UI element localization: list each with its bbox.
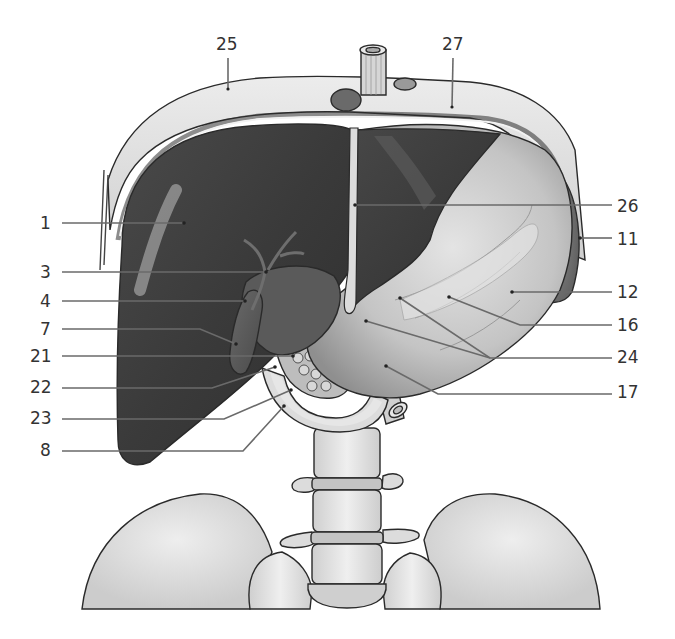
transverse-process-lower-left <box>280 532 313 548</box>
label-21: 21 <box>30 346 52 366</box>
label-1: 1 <box>40 213 51 233</box>
aortic-hiatus <box>394 78 416 90</box>
label-7: 7 <box>40 319 51 339</box>
transverse-process-lower-right <box>383 529 419 543</box>
label-3: 3 <box>40 262 51 282</box>
vertebra-2 <box>313 490 381 532</box>
label-16: 16 <box>617 315 639 335</box>
vertebra-1 <box>314 428 380 478</box>
left-ilium <box>82 494 272 609</box>
label-24: 24 <box>617 347 639 367</box>
right-ilium <box>424 494 600 609</box>
transverse-process-upper-left <box>292 478 314 493</box>
label-25: 25 <box>216 34 238 54</box>
label-23: 23 <box>30 408 52 428</box>
disc-1 <box>312 478 382 490</box>
anatomy-figure: 25 27 1 3 4 7 21 22 23 8 26 11 12 16 24 … <box>0 0 675 639</box>
disc-2 <box>311 532 383 544</box>
vertebra-3 <box>312 544 382 584</box>
esophagus <box>360 45 386 95</box>
label-26: 26 <box>617 196 639 216</box>
inferior-vena-cava-opening <box>331 89 361 111</box>
diaphragm-right-edge <box>100 170 108 270</box>
sacrum-top <box>308 584 386 608</box>
label-11: 11 <box>617 229 639 249</box>
label-17: 17 <box>617 382 639 402</box>
label-27: 27 <box>442 34 464 54</box>
label-4: 4 <box>40 291 51 311</box>
label-22: 22 <box>30 377 52 397</box>
label-8: 8 <box>40 440 51 460</box>
transverse-process-upper-right <box>382 474 403 489</box>
label-12: 12 <box>617 282 639 302</box>
